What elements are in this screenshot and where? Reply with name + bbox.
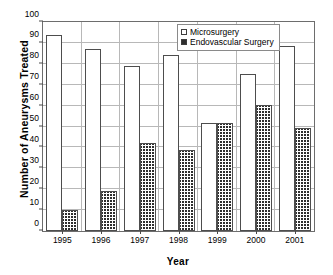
open-square-icon bbox=[181, 29, 187, 35]
bar-microsurgery-2000 bbox=[240, 74, 256, 231]
bar-microsurgery-1998 bbox=[163, 55, 179, 231]
bar-microsurgery-1997 bbox=[124, 66, 140, 231]
x-axis-tick-label: 1995 bbox=[43, 235, 82, 245]
y-axis-tick-label: 0 bbox=[34, 218, 39, 227]
x-axis-tick-label: 1999 bbox=[198, 235, 237, 245]
x-axis-tick-label: 2000 bbox=[237, 235, 276, 245]
x-axis-title: Year bbox=[40, 256, 316, 267]
bar-endovascular-1997 bbox=[140, 143, 156, 231]
y-axis-tick-label: 80 bbox=[30, 51, 39, 60]
x-axis-tick-label: 1998 bbox=[159, 235, 198, 245]
x-axis-tick-mark bbox=[62, 231, 63, 234]
bar-group: 2001 bbox=[275, 22, 314, 231]
bar-endovascular-1995 bbox=[62, 210, 78, 231]
bar-microsurgery-1999 bbox=[201, 123, 217, 231]
y-axis-title: Number of Aneurysms Treated bbox=[18, 14, 30, 224]
bar-group: 1996 bbox=[82, 22, 121, 231]
bar-group: 1998 bbox=[159, 22, 198, 231]
bar-group: 1999 bbox=[198, 22, 237, 231]
y-axis-tick-label: 40 bbox=[30, 135, 39, 144]
y-axis-tick-label: 30 bbox=[30, 156, 39, 165]
bar-endovascular-1998 bbox=[179, 150, 195, 232]
x-axis-tick-label: 1997 bbox=[120, 235, 159, 245]
x-axis-tick-label: 1996 bbox=[82, 235, 121, 245]
y-axis-tick-label: 100 bbox=[25, 9, 39, 18]
bar-microsurgery-1995 bbox=[46, 35, 62, 231]
bar-microsurgery-1996 bbox=[85, 49, 101, 231]
bar-endovascular-1996 bbox=[101, 191, 117, 231]
y-axis-tick-label: 20 bbox=[30, 176, 39, 185]
x-axis-tick-mark bbox=[295, 231, 296, 234]
bar-endovascular-2001 bbox=[295, 128, 311, 231]
x-axis-tick-mark bbox=[256, 231, 257, 234]
y-axis-tick-label: 10 bbox=[30, 197, 39, 206]
chart-legend: MicrosurgeryEndovascular Surgery bbox=[177, 24, 280, 51]
bar-group: 1995 bbox=[43, 22, 82, 231]
x-axis-tick-mark bbox=[101, 231, 102, 234]
plot-area: 0102030405060708090100 19951996199719981… bbox=[42, 21, 315, 232]
x-axis-tick-mark bbox=[140, 231, 141, 234]
x-axis-tick-mark bbox=[179, 231, 180, 234]
bar-groups: 1995199619971998199920002001 bbox=[43, 22, 314, 231]
legend-item: Endovascular Surgery bbox=[181, 37, 274, 47]
y-axis-tick-label: 50 bbox=[30, 114, 39, 123]
bar-group: 1997 bbox=[120, 22, 159, 231]
y-axis-tick-label: 60 bbox=[30, 93, 39, 102]
legend-item-label: Microsurgery bbox=[190, 27, 239, 37]
bar-group: 2000 bbox=[237, 22, 276, 231]
y-axis-tick-label: 90 bbox=[30, 30, 39, 39]
legend-item-label: Endovascular Surgery bbox=[190, 37, 274, 47]
bar-endovascular-1999 bbox=[217, 123, 233, 231]
bar-microsurgery-2001 bbox=[279, 46, 295, 231]
x-axis-tick-label: 2001 bbox=[275, 235, 314, 245]
legend-item: Microsurgery bbox=[181, 27, 274, 37]
aneurysms-treated-bar-chart: Number of Aneurysms Treated 010203040506… bbox=[0, 0, 333, 275]
bar-endovascular-2000 bbox=[256, 105, 272, 231]
hatched-square-icon bbox=[181, 39, 187, 45]
x-axis-tick-mark bbox=[217, 231, 218, 234]
y-axis-tick-label: 70 bbox=[30, 72, 39, 81]
